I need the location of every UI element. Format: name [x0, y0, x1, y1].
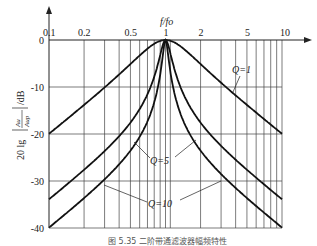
x-tick-label: 10 [280, 27, 290, 38]
x-tick-label: 0.2 [78, 27, 91, 38]
y-label-prefix: 20 lg [15, 140, 26, 160]
y-tick-label: -20 [31, 129, 44, 140]
x-tick-label: 1 [164, 27, 169, 38]
y-tick-label: -10 [31, 82, 44, 93]
x-axis-label: f/fo [160, 16, 173, 27]
q5-label: Q=5 [150, 155, 169, 166]
y-label-numerator: Au [14, 119, 22, 128]
x-tick-labels: 0.10.20.512510 [43, 27, 290, 38]
q10-leader-left [104, 185, 147, 202]
x-tick-label: 0.1 [43, 27, 56, 38]
q10-label: Q=10 [148, 198, 172, 209]
y-tick-label: 0 [39, 35, 44, 46]
y-label-denominator: Aup [23, 115, 31, 128]
figure-caption: 图 5.35 二阶带通滤波器幅频特性 [108, 236, 227, 246]
y-label-unit: /dB [15, 90, 26, 105]
x-tick-label: 2 [199, 27, 204, 38]
y-tick-label: -40 [31, 223, 44, 234]
bandpass-frequency-response-chart: 0.10.20.512510 0-10-20-30-40 f/fo 20 lg … [0, 0, 317, 246]
y-tick-label: -30 [31, 176, 44, 187]
q5-leader-right [175, 140, 196, 157]
y-axis-label: 20 lg Au Aup /dB [12, 90, 31, 160]
x-tick-label: 0.5 [124, 27, 137, 38]
x-axis-arrow-icon [304, 37, 312, 43]
y-tick-labels: 0-10-20-30-40 [31, 35, 44, 234]
q1-label: Q=1 [232, 64, 251, 75]
x-tick-label: 5 [245, 27, 250, 38]
q1-leader [233, 76, 240, 92]
y-axis-arrow-icon [46, 6, 52, 14]
